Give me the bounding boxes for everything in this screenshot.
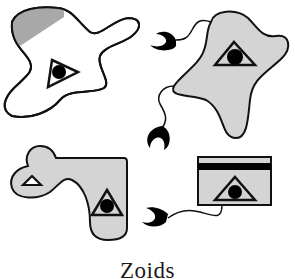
zoid-top-right — [147, 12, 288, 150]
claw-icon — [150, 32, 176, 51]
tendril — [159, 86, 174, 128]
claw-icon — [142, 207, 168, 226]
tendril — [176, 20, 211, 40]
zoid-bottom-right — [142, 157, 271, 227]
black-bar — [198, 163, 271, 170]
zoid-bottom-left — [11, 146, 127, 240]
claw-icon — [147, 126, 169, 150]
zoids-diagram — [0, 0, 295, 279]
zoid-top-left — [0, 0, 139, 117]
diagram-caption: Zoids — [0, 258, 295, 279]
tendril — [168, 205, 222, 218]
